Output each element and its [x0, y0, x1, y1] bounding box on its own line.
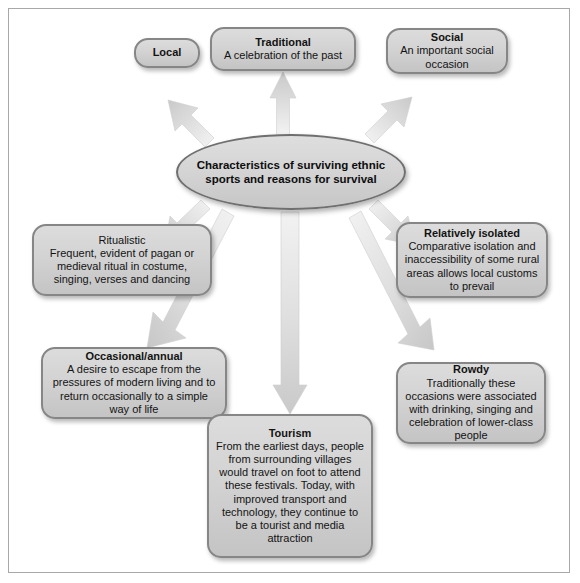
node-traditional-title: Traditional [255, 36, 311, 49]
node-local[interactable]: Local [134, 38, 200, 68]
node-social-title: Social [431, 31, 463, 44]
node-ritualistic-body: Frequent, evident of pagan or medieval r… [40, 247, 204, 287]
center-node[interactable]: Characteristics of surviving ethnic spor… [176, 134, 406, 210]
node-relatively-isolated-title: Relatively isolated [424, 227, 520, 240]
node-relatively-isolated[interactable]: Relatively isolated Comparative isolatio… [396, 222, 548, 298]
node-occasional-annual-title: Occasional/annual [85, 350, 182, 363]
node-rowdy-title: Rowdy [453, 363, 489, 376]
center-node-text: Characteristics of surviving ethnic spor… [178, 158, 404, 186]
node-tourism-body: From the earliest days, people from surr… [215, 440, 365, 546]
diagram-canvas: Characteristics of surviving ethnic spor… [0, 0, 580, 583]
node-occasional-annual-body: A desire to escape from the pressures of… [49, 363, 219, 416]
node-relatively-isolated-body: Comparative isolation and inaccessibilit… [404, 240, 540, 293]
node-tourism[interactable]: Tourism From the earliest days, people f… [207, 414, 373, 558]
node-local-title: Local [153, 46, 182, 59]
node-traditional[interactable]: Traditional A celebration of the past [210, 27, 356, 71]
node-traditional-body: A celebration of the past [224, 49, 342, 62]
node-social-body: An important social occasion [394, 44, 500, 70]
node-rowdy[interactable]: Rowdy Traditionally these occasions were… [396, 362, 546, 444]
node-ritualistic-title: Ritualistic [98, 234, 145, 247]
node-social[interactable]: Social An important social occasion [386, 28, 508, 74]
node-rowdy-body: Traditionally these occasions were assoc… [404, 377, 538, 443]
node-occasional-annual[interactable]: Occasional/annual A desire to escape fro… [41, 347, 227, 419]
node-ritualistic[interactable]: Ritualistic Frequent, evident of pagan o… [32, 224, 212, 296]
node-tourism-title: Tourism [269, 427, 312, 440]
